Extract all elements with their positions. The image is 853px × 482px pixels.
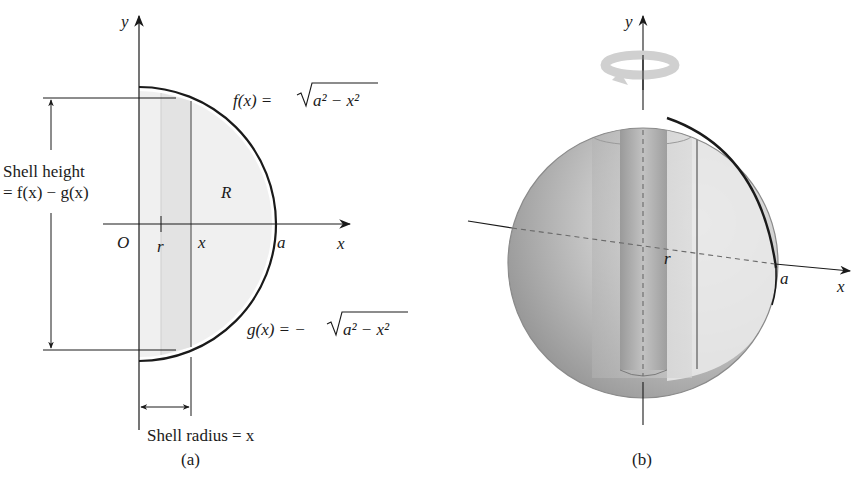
region-label: R (220, 183, 232, 202)
panel-a: y x O r x a R f(x) = a² − x² g(x) = − a²… (3, 12, 408, 469)
x-axis-label-a: x (336, 234, 345, 253)
caption-a: (a) (181, 450, 200, 469)
r-label-a: r (157, 237, 164, 256)
cylinder-top (620, 112, 667, 124)
origin-label: O (117, 233, 129, 252)
svg-text:a² − x²: a² − x² (313, 91, 360, 110)
r-label-b: r (664, 249, 671, 268)
svg-text:g(x) = −: g(x) = − (247, 320, 306, 339)
a-label-b: a (780, 269, 789, 288)
caption-b: (b) (632, 450, 652, 469)
g-equation: g(x) = − a² − x² (247, 312, 408, 339)
figure-canvas: y x O r x a R f(x) = a² − x² g(x) = − a²… (0, 0, 853, 482)
f-equation: f(x) = a² − x² (233, 83, 378, 110)
rotation-arrow-icon (605, 55, 675, 90)
a-label-a: a (277, 233, 286, 252)
svg-text:a² − x²: a² − x² (343, 320, 390, 339)
shell-height-label-line1: Shell height (3, 162, 85, 181)
y-axis-label-a: y (119, 12, 129, 31)
y-axis-label-b: y (623, 12, 633, 31)
svg-text:f(x) =: f(x) = (233, 91, 272, 110)
x-axis-label-b: x (836, 277, 845, 296)
shell-radius-label: Shell radius = x (147, 426, 255, 445)
panel-b: y r a x (b) (468, 12, 850, 469)
x-tick-label: x (197, 233, 206, 252)
x-axis-b-back (468, 221, 512, 228)
shell-height-label-line2: = f(x) − g(x) (3, 183, 89, 202)
